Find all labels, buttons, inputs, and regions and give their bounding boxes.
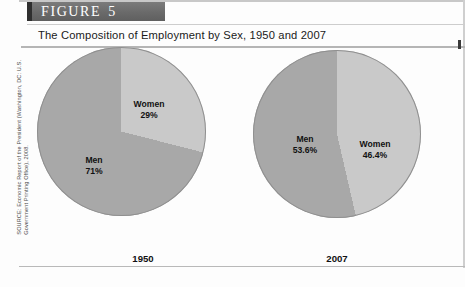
slice-value: 71% xyxy=(68,166,120,177)
figure-header-label: FIGURE5 xyxy=(41,3,115,20)
pie-slice-label-1950-men: Men 71% xyxy=(68,155,120,177)
figure-header-accent-block xyxy=(27,2,32,21)
pie-year-label-2007: 2007 xyxy=(307,253,367,264)
slice-name: Men xyxy=(277,134,333,145)
figure-number: 5 xyxy=(108,4,115,19)
slice-value: 29% xyxy=(118,110,180,121)
pie-slice-label-1950-women: Women 29% xyxy=(118,99,180,121)
slice-name: Men xyxy=(68,155,120,166)
figure-container: FIGURE5 The Composition of Employment by… xyxy=(0,0,465,287)
slice-value: 46.4% xyxy=(344,150,406,161)
pie-slice-label-2007-men: Men 53.6% xyxy=(277,134,333,156)
pie-chart-1950 xyxy=(37,47,206,216)
slice-name: Women xyxy=(118,99,180,110)
pie-year-label-1950: 1950 xyxy=(113,253,173,264)
pie-slice-label-2007-women: Women 46.4% xyxy=(344,139,406,161)
source-note: SOURCE: Economic Report of the President… xyxy=(16,40,30,235)
source-note-line-1: SOURCE: Economic Report of the President… xyxy=(16,40,23,235)
subtitle-top-rule xyxy=(27,24,465,25)
slice-name: Women xyxy=(344,139,406,150)
pie-slices-1950 xyxy=(37,47,206,216)
slice-value: 53.6% xyxy=(277,145,333,156)
source-note-line-2: Government Printing Office), 2008. xyxy=(24,40,31,235)
figure-word: FIGURE xyxy=(41,4,101,19)
subtitle-rule-end-tick xyxy=(458,40,461,49)
figure-subtitle: The Composition of Employment by Sex, 19… xyxy=(38,27,326,43)
page-frame-bottom-rule xyxy=(19,266,465,267)
